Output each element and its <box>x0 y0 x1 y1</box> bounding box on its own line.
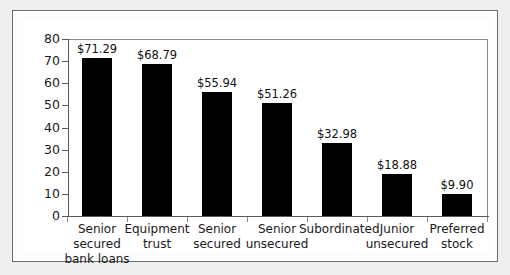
y-axis-tick-label: 80 <box>26 33 60 46</box>
y-axis-tick-label: 60 <box>26 77 60 90</box>
y-axis-tick-label-wrap: 80 <box>22 33 60 45</box>
y-axis-tick-label: 40 <box>26 122 60 135</box>
y-axis-tick-label-wrap: 40 <box>22 122 60 134</box>
bar-value-label: $51.26 <box>247 89 307 101</box>
x-axis-category-label: Preferredstock <box>419 222 495 252</box>
figure-frame: 01020304050607080 $71.29$68.79$55.94$51.… <box>12 10 498 262</box>
y-axis-tick <box>62 39 68 40</box>
x-axis-category-label-line: stock <box>419 237 495 252</box>
x-axis-category-label-line: unsecured <box>239 237 315 252</box>
bar <box>202 92 232 216</box>
y-axis-tick-label: 70 <box>26 55 60 68</box>
x-axis-category-label-line: Preferred <box>419 222 495 237</box>
y-axis-line <box>68 39 69 217</box>
bar-value-label: $55.94 <box>187 78 247 90</box>
y-axis-tick <box>62 172 68 173</box>
bar <box>82 58 112 216</box>
bar <box>442 194 472 216</box>
bar-value-label: $68.79 <box>127 50 187 62</box>
bar-value-label: $71.29 <box>67 44 127 56</box>
y-axis-tick <box>62 105 68 106</box>
x-axis-line <box>68 216 489 217</box>
y-axis-tick-label-wrap: 10 <box>22 188 60 200</box>
bar-value-label: $9.90 <box>427 180 487 192</box>
y-axis-tick-label: 0 <box>26 210 60 223</box>
y-axis-tick <box>62 150 68 151</box>
y-axis-tick <box>62 61 68 62</box>
y-axis-tick-label: 20 <box>26 166 60 179</box>
y-axis-tick-label: 10 <box>26 188 60 201</box>
y-axis-tick-label: 30 <box>26 144 60 157</box>
bar <box>142 64 172 216</box>
bar-value-label: $32.98 <box>307 129 367 141</box>
y-axis-tick <box>62 194 68 195</box>
y-axis-tick <box>62 83 68 84</box>
y-axis-tick-label-wrap: 20 <box>22 166 60 178</box>
y-axis-tick-label-wrap: 70 <box>22 55 60 67</box>
bar <box>322 143 352 216</box>
y-axis-tick-label-wrap: 60 <box>22 77 60 89</box>
plot-area: 01020304050607080 $71.29$68.79$55.94$51.… <box>22 19 488 253</box>
y-axis-tick-label-wrap: 0 <box>22 210 60 222</box>
y-axis-tick-label: 50 <box>26 99 60 112</box>
y-axis-tick-label-wrap: 50 <box>22 99 60 111</box>
bar <box>262 103 292 216</box>
y-axis-tick <box>62 128 68 129</box>
bar <box>382 174 412 216</box>
y-axis-tick-label-wrap: 30 <box>22 144 60 156</box>
x-axis-category-label-line: bank loans <box>59 252 135 267</box>
bar-value-label: $18.88 <box>367 160 427 172</box>
